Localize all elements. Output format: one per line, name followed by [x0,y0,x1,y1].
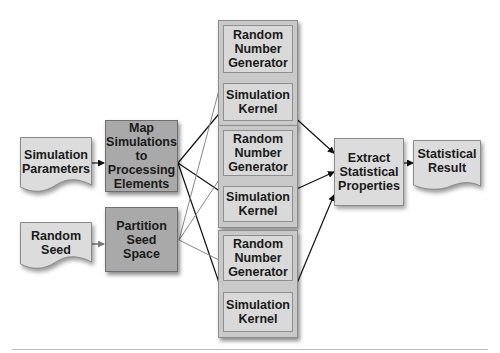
simulation-kernel-3: Simulation Kernel [223,292,293,332]
partition-seed-space-label: Partition Seed Space [114,219,169,261]
kernel-label: Simulation Kernel [226,88,290,116]
bottom-divider [12,349,488,350]
random-number-generator-1: Random Number Generator [223,25,293,73]
statistical-result-document: Statistical Result [413,140,481,192]
partition-seed-space-box: Partition Seed Space [105,207,178,272]
pipeline-group-1: Random Number Generator Simulation Kerne… [218,20,298,127]
simulation-kernel-2: Simulation Kernel [223,186,293,222]
rng-label: Random Number Generator [228,28,288,70]
simulation-parameters-label: Simulation Parameters [20,142,92,182]
extract-statistical-properties-label: Extract Statistical Properties [335,151,403,193]
random-seed-label: Random Seed [20,225,92,261]
extract-statistical-properties-box: Extract Statistical Properties [334,138,404,206]
kernel-label: Simulation Kernel [226,190,290,218]
pipeline-group-2: Random Number Generator Simulation Kerne… [218,125,298,228]
rng-label: Random Number Generator [228,132,288,174]
random-seed-document: Random Seed [20,222,92,272]
simulation-kernel-1: Simulation Kernel [223,83,293,121]
simulation-parameters-document: Simulation Parameters [20,137,92,195]
pipeline-group-3: Random Number Generator Simulation Kerne… [218,230,298,338]
map-simulations-box: Map Simulations to Processing Elements [105,120,178,192]
map-simulations-label: Map Simulations to Processing Elements [106,121,177,191]
random-number-generator-2: Random Number Generator [223,130,293,176]
rng-label: Random Number Generator [228,237,288,279]
statistical-result-label: Statistical Result [413,143,481,179]
random-number-generator-3: Random Number Generator [223,235,293,281]
kernel-label: Simulation Kernel [226,298,290,326]
